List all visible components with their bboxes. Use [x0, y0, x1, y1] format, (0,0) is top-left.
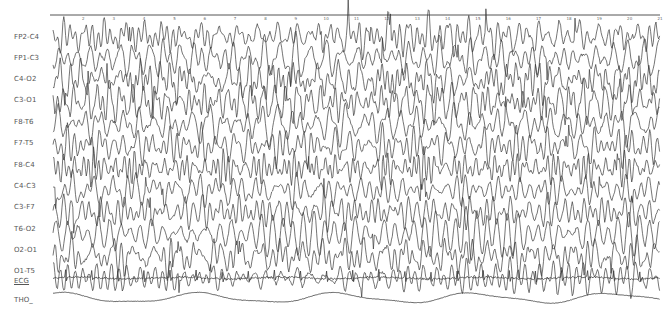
time-axis: 23456789101112131415161718192021: [50, 15, 663, 21]
eeg-trace-plot: 23456789101112131415161718192021: [0, 0, 664, 320]
time-tick-label: 21: [657, 16, 663, 21]
time-tick-label: 9: [295, 16, 298, 21]
trace-ecg: [53, 269, 660, 282]
time-tick-label: 8: [264, 16, 267, 21]
time-tick-label: 20: [627, 16, 633, 21]
trace-group: [53, 0, 660, 303]
time-tick-label: 6: [203, 16, 206, 21]
eeg-viewer: FP2-C4FP1-C3C4-O2C3-O1F8-T6F7-T5F8-C4C4-…: [0, 0, 664, 320]
time-tick-label: 5: [173, 16, 176, 21]
time-tick-label: 2: [82, 16, 85, 21]
trace-c3-f7: [53, 178, 660, 233]
trace-f8-t6: [53, 97, 660, 148]
time-tick-label: 13: [415, 16, 421, 21]
time-tick-label: 18: [566, 16, 572, 21]
time-tick-label: 10: [324, 16, 330, 21]
time-tick-label: 16: [506, 16, 512, 21]
time-tick-label: 19: [597, 16, 603, 21]
time-tick-label: 17: [536, 16, 542, 21]
trace-tho: [53, 292, 660, 303]
time-tick-label: 3: [112, 16, 115, 21]
time-tick-label: 11: [354, 16, 360, 21]
time-tick-label: 14: [445, 16, 451, 21]
time-tick-label: 7: [234, 16, 237, 21]
time-tick-label: 15: [475, 16, 481, 21]
